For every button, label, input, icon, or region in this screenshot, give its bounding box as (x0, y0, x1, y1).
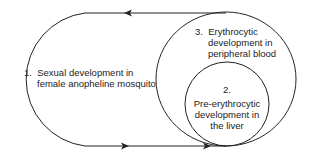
stage-1-label: 1. Sexual development in female anopheli… (24, 67, 156, 89)
stage-3-label: 3. Erythrocytic development in periphera… (195, 26, 276, 59)
stage-2-label: 2. Pre-erythrocytic development in the l… (190, 84, 264, 131)
